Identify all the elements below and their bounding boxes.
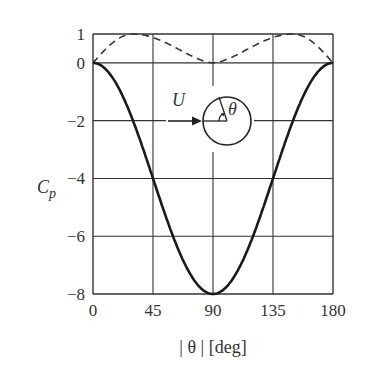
cp-chart: 0459013518010−2−4−6−8 U θ Cp | θ | [deg] (0, 0, 370, 380)
y-tick-label: 1 (77, 25, 86, 44)
x-tick-label: 45 (145, 301, 162, 320)
theta-label: θ (228, 99, 237, 119)
tick-labels: 0459013518010−2−4−6−8 (67, 25, 346, 320)
cylinder-inset: U θ (166, 86, 254, 152)
x-tick-label: 135 (260, 301, 286, 320)
y-tick-label: −8 (67, 285, 85, 304)
y-tick-label: −4 (67, 169, 86, 188)
y-axis-label: Cp (37, 177, 56, 201)
x-tick-label: 90 (205, 301, 222, 320)
grid (93, 34, 333, 294)
x-axis-label: | θ | [deg] (179, 337, 246, 357)
x-tick-label: 180 (320, 301, 346, 320)
y-tick-label: −2 (67, 112, 85, 131)
y-tick-label: −6 (67, 227, 85, 246)
y-tick-label: 0 (77, 54, 86, 73)
u-label: U (172, 90, 186, 110)
x-tick-label: 0 (89, 301, 98, 320)
